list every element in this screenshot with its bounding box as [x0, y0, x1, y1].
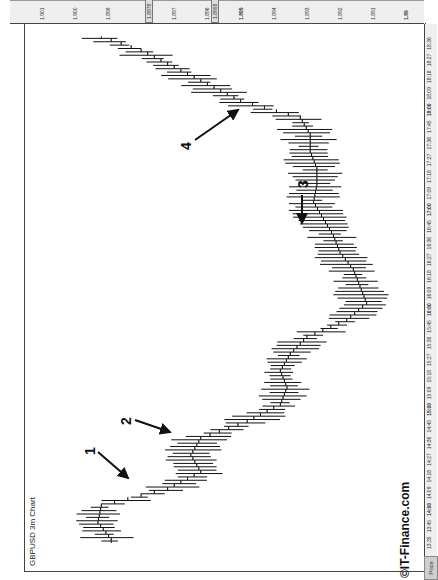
rotated-chart: GBPUSD 3m Chart Price ©IT-Finance.com 1.… — [0, 0, 438, 580]
arrow-1-icon — [98, 452, 128, 478]
annotation-arrows — [0, 0, 438, 580]
arrow-4-icon — [195, 110, 238, 140]
arrow-2-icon — [135, 420, 170, 432]
